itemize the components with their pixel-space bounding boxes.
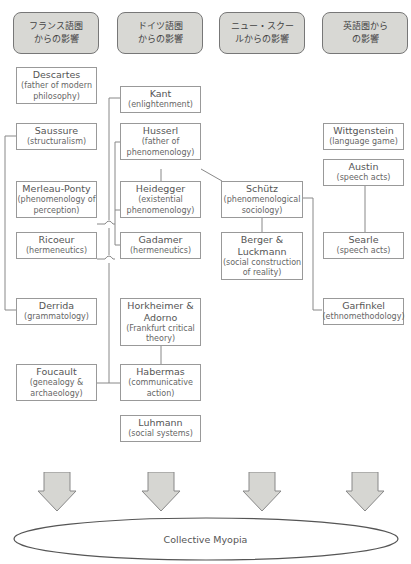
outcome-label: Collective Myopia bbox=[0, 534, 411, 545]
outcome-ellipse bbox=[0, 0, 411, 564]
